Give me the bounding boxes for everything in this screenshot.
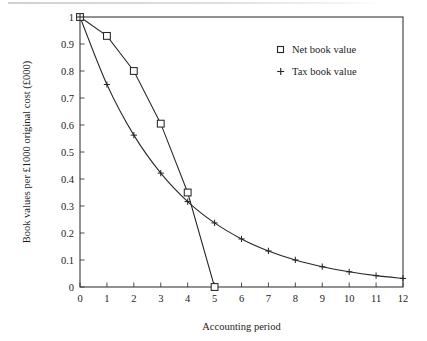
x-tick-label: 1 <box>104 293 109 304</box>
x-tick-label: 11 <box>371 293 381 304</box>
y-tick-label: 0.7 <box>61 93 74 104</box>
y-tick-label: 0.4 <box>61 174 75 185</box>
data-point-marker-square <box>104 33 111 40</box>
data-point-marker-plus <box>319 264 325 270</box>
data-point-marker-square <box>157 120 164 127</box>
y-tick-label: 0 <box>69 282 74 293</box>
x-tick-label: 9 <box>320 293 325 304</box>
data-point-marker-plus <box>346 269 352 275</box>
data-point-marker-plus <box>131 132 137 138</box>
y-tick-label: 0.2 <box>61 228 74 239</box>
x-tick-label: 3 <box>158 293 163 304</box>
x-tick-label: 5 <box>212 293 217 304</box>
x-tick-label: 6 <box>239 293 244 304</box>
chart-figure: 00.10.20.30.40.50.60.70.80.91 0123456789… <box>0 0 427 341</box>
data-point-marker-plus <box>238 236 244 242</box>
x-tick-label: 12 <box>398 293 409 304</box>
y-axis-ticks <box>80 17 85 287</box>
y-tick-label: 0.9 <box>61 39 74 50</box>
data-point-marker-square <box>184 189 191 196</box>
y-tick-label: 0.8 <box>61 66 74 77</box>
data-point-marker-square <box>211 284 218 291</box>
data-point-marker-plus <box>400 275 406 281</box>
data-point-marker-plus <box>104 81 110 87</box>
marker-layer <box>77 14 407 291</box>
x-tick-label: 8 <box>293 293 298 304</box>
y-axis-title: Book values per £1000 original cost (£00… <box>21 60 33 243</box>
series-line-net-book-value <box>80 17 215 287</box>
legend-marker-plus-icon <box>277 68 284 75</box>
legend-label-net-book-value: Net book value <box>292 44 356 55</box>
data-point-marker-plus <box>211 220 217 226</box>
data-point-marker-plus <box>373 273 379 279</box>
y-tick-label: 0.6 <box>61 120 74 131</box>
plot-frame <box>80 17 403 287</box>
x-tick-label: 0 <box>77 293 82 304</box>
data-point-marker-square <box>130 68 137 75</box>
x-tick-label: 7 <box>266 293 271 304</box>
data-point-marker-plus <box>265 248 271 254</box>
x-axis-ticks <box>80 283 403 288</box>
x-tick-label: 2 <box>131 293 136 304</box>
x-tick-label: 4 <box>185 293 191 304</box>
y-tick-label: 0.5 <box>61 147 74 158</box>
y-tick-label: 1 <box>69 12 74 23</box>
y-axis-tick-labels: 00.10.20.30.40.50.60.70.80.91 <box>61 12 75 293</box>
x-axis-title: Accounting period <box>202 321 281 332</box>
y-tick-label: 0.1 <box>61 255 74 266</box>
line-chart: 00.10.20.30.40.50.60.70.80.91 0123456789… <box>0 0 427 341</box>
data-point-marker-plus <box>292 257 298 263</box>
x-tick-label: 10 <box>344 293 355 304</box>
legend-marker-square-icon <box>278 47 284 53</box>
legend-label-tax-book-value: Tax book value <box>292 66 357 77</box>
chart-legend: Net book value Tax book value <box>277 44 357 77</box>
x-axis-tick-labels: 0123456789101112 <box>77 293 408 304</box>
series-layer <box>80 17 403 287</box>
y-tick-label: 0.3 <box>61 201 74 212</box>
